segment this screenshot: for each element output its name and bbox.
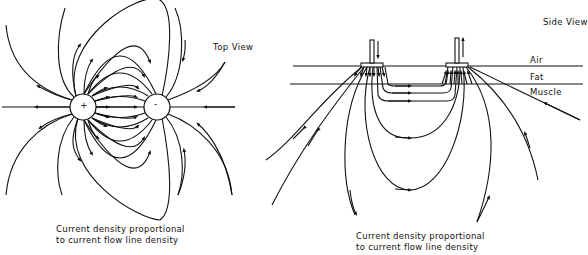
side-view-caption: Current density proportional to current … [356,231,485,253]
layer-label-fat: Fat [530,72,544,82]
side-view-caption-line-2: to current flow line density [356,242,485,253]
top-view-title: Top View [213,42,253,52]
electrode-left-lead [370,40,374,63]
top-view-caption: Current density proportional to current … [56,224,185,246]
negative-electrode-symbol: - [154,99,158,109]
top-view-caption-line-2: to current flow line density [56,235,185,246]
side-view-caption-line-1: Current density proportional [356,231,485,242]
side-view-title: Side View [543,17,588,27]
electrode-left-plate [361,63,383,67]
layer-label-muscle: Muscle [530,87,562,97]
electrode-right-lead [455,38,459,63]
positive-electrode-symbol: + [80,100,88,110]
side-view-diagram [266,38,583,222]
top-view-caption-line-1: Current density proportional [56,224,185,235]
top-view-diagram [2,0,235,220]
layer-label-air: Air [530,55,543,65]
electrode-right-plate [446,63,468,67]
diagram-canvas [0,0,588,255]
